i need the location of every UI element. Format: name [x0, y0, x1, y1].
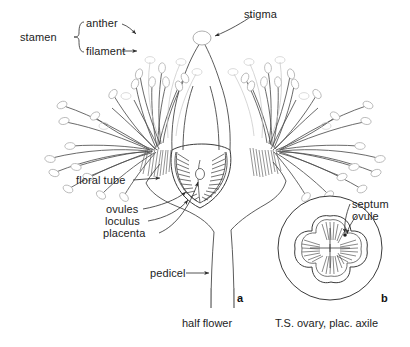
label-placenta: placenta: [103, 227, 145, 239]
stamens-right: [246, 70, 378, 196]
anthers-right: [240, 63, 386, 204]
pedicel-shape: [211, 230, 234, 308]
panel-letter-a: a: [237, 292, 243, 304]
label-pedicel: pedicel: [150, 267, 186, 279]
ovule-marker: [343, 233, 347, 237]
label-anther: anther: [86, 17, 118, 29]
panel-a-ticks: [211, 288, 234, 308]
botanical-illustration: [0, 0, 410, 347]
label-ovule: ovule: [352, 210, 379, 222]
figure-canvas: stamen anther filament stigma floral tub…: [0, 0, 410, 347]
label-stigma: stigma: [244, 8, 277, 20]
label-loculus: loculus: [105, 215, 140, 227]
label-septum: septum: [352, 198, 389, 210]
label-ovules: ovules: [106, 203, 138, 215]
label-filament: filament: [86, 45, 125, 57]
panel-letter-b: b: [381, 292, 388, 304]
label-floral-tube: floral tube: [76, 174, 125, 186]
caption-half-flower: half flower: [182, 317, 232, 329]
stigma-shape: [193, 31, 211, 45]
caption-ts-ovary: T.S. ovary, plac. axile: [275, 317, 378, 329]
style-walls: [172, 40, 230, 150]
label-stamen: stamen: [20, 31, 57, 43]
